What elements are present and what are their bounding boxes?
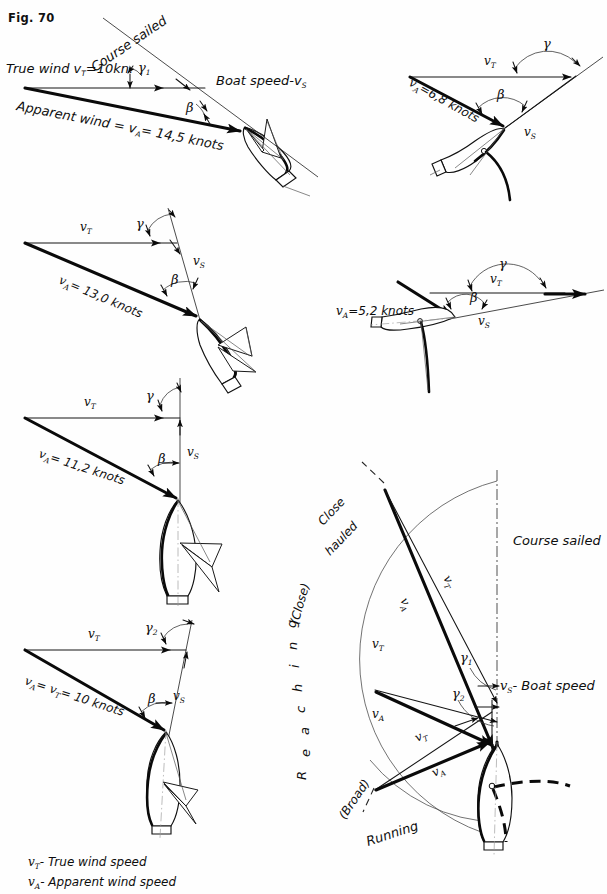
va-label-5: vA= 11,2 knots — [36, 447, 126, 490]
gamma-arrow-4b — [540, 278, 546, 288]
polar-vt-label-1: vT — [439, 573, 459, 592]
panel-broad-reach: γ β vT vS vA= — [336, 256, 604, 392]
polar-text-labels: Close hauled (Close) R e a c h i n g (Br… — [284, 495, 601, 849]
svg-text:i: i — [287, 664, 302, 668]
vs-label-2: vS — [524, 125, 536, 141]
svg-text:g: g — [284, 620, 299, 628]
svg-text:R: R — [294, 771, 309, 780]
vt-label-3: vT — [80, 220, 93, 236]
vt-label-6: vT — [88, 627, 101, 643]
boat-hull-polar — [478, 742, 570, 856]
gamma-label-2: γ — [543, 36, 551, 51]
vs-arrow-3 — [170, 240, 180, 254]
va-label-6: vA= vT= 10 knots — [22, 674, 126, 721]
polar-vt-label-2: vT — [372, 637, 385, 653]
svg-text:a: a — [297, 727, 312, 735]
gamma2-label-6: γ2 — [145, 620, 158, 637]
beta-label-6: β — [147, 691, 156, 706]
vs-label-3: vS — [193, 254, 205, 270]
legend-item-apparent-wind: vA- Apparent wind speed — [28, 875, 176, 891]
beta-arc-4 — [448, 294, 485, 304]
panel-close-reach: γ β vT — [25, 208, 256, 393]
svg-text:n: n — [285, 642, 300, 650]
sailing-vector-figure: Fig. 70 — [0, 0, 607, 894]
boat-hull-3 — [197, 319, 256, 393]
figure-label: Fig. 70 — [8, 11, 55, 25]
polar-vt-run — [375, 712, 492, 790]
polar-va-label-2: vA — [372, 707, 385, 723]
broad-label: (Broad) — [336, 777, 373, 822]
vt-label-5: vT — [84, 395, 97, 411]
va-label-4: vA=5,2 knots — [336, 304, 414, 320]
polar-va-label-1: vA — [395, 596, 415, 614]
panel-polar-diagram: γ1 γ2 Close — [284, 462, 601, 856]
boat-hull-5 — [160, 498, 222, 608]
gamma-label-5: γ — [146, 388, 154, 403]
course-ray-6 — [168, 620, 192, 740]
gamma-arrow-3a — [146, 225, 150, 236]
legend: vT- True wind speed vA- Apparent wind sp… — [28, 855, 176, 891]
gamma-label-4: γ — [499, 256, 507, 271]
vt-label-4: vT — [490, 272, 503, 288]
figure-page: Fig. 70 — [0, 0, 607, 894]
gamma-label-3: γ — [136, 216, 144, 231]
beta-arrow-3a — [161, 285, 167, 296]
beta-arrow-5a — [148, 465, 154, 476]
gamma2-arrow-polar-b — [455, 718, 478, 726]
va-label-3: vA= 13,0 knots — [56, 273, 145, 323]
panel-beam-reach: γ β vT v — [406, 36, 603, 200]
polar-vt-label-3: vT — [413, 727, 431, 747]
panel-beam: γ β vT vS — [25, 378, 222, 608]
beta-label-4: β — [469, 290, 478, 305]
svg-text:h: h — [290, 684, 305, 692]
polar-outer-arc — [360, 481, 497, 837]
boat-speed-label-polar: vS- Boat speed — [500, 678, 595, 695]
gamma-arc-5 — [160, 387, 180, 405]
course-sailed-label-polar: Course sailed — [513, 533, 601, 548]
beta-label-1: β — [185, 100, 194, 115]
close-hauled-label-1: Close — [315, 495, 348, 528]
reaching-label: R e a c h i n g — [284, 620, 313, 780]
gamma1-label-1: γ1 — [138, 60, 151, 77]
true-wind-label: True wind vT=10kn. — [6, 61, 133, 78]
boat-hull-4 — [370, 307, 455, 392]
beta-arc-1 — [196, 104, 206, 120]
gamma2-arc-6 — [163, 624, 188, 638]
vs-label-6: vS — [173, 689, 185, 705]
beta-arrow-3b — [193, 278, 198, 289]
polar-vt-reach — [375, 690, 497, 722]
panel-running: γ2 β vT vS — [22, 620, 198, 838]
gamma-arc-3 — [148, 214, 172, 230]
beta-label-5: β — [157, 451, 166, 466]
vs-label-4: vS — [478, 314, 490, 330]
boat-hull-6 — [147, 730, 198, 838]
running-label: Running — [364, 818, 420, 849]
polar-va-close — [385, 490, 493, 748]
beta-arrow-2b — [522, 101, 527, 112]
va-label-2: vA=6,8 knots — [406, 75, 482, 127]
beta-label-2: β — [496, 87, 505, 102]
gamma-arc-2 — [515, 51, 575, 68]
boat-hull-1 — [243, 119, 310, 196]
vt-label-2: vT — [484, 54, 497, 70]
gamma1-arc-polar — [470, 668, 496, 690]
gamma2-label-polar: γ2 — [452, 686, 465, 703]
beta-label-3: β — [170, 272, 179, 287]
close-label: (Close) — [287, 582, 312, 626]
svg-text:c: c — [293, 706, 308, 713]
gamma-arrow-2a — [513, 62, 517, 73]
panel-close-hauled: True wind vT=10kn. Course sailed Boat sp… — [6, 13, 318, 196]
gamma-arrow-2b — [572, 58, 580, 66]
boat-speed-label: Boat speed-vS — [216, 73, 307, 90]
boat-hull-2 — [430, 129, 510, 200]
vs-label-5: vS — [187, 445, 199, 461]
close-hauled-dash — [362, 462, 384, 483]
svg-text:e: e — [298, 749, 313, 757]
vs-segment-2 — [505, 76, 576, 128]
legend-item-true-wind: vT- True wind speed — [28, 855, 147, 871]
gamma2-arrow-6b — [183, 620, 194, 624]
polar-vt-close — [385, 490, 497, 703]
